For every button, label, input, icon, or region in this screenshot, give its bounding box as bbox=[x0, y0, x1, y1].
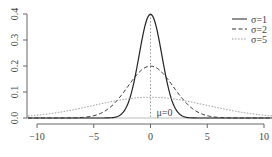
curve-solid bbox=[28, 14, 272, 118]
x-tick-label: 0 bbox=[148, 131, 153, 142]
x-tick-label: −5 bbox=[88, 131, 99, 142]
x-tick-label: 5 bbox=[205, 131, 210, 142]
y-tick-label: 0.0 bbox=[9, 112, 20, 125]
curve-dotted bbox=[28, 97, 272, 116]
curves: μ=0 bbox=[28, 14, 272, 118]
x-axis: −10−50510 bbox=[29, 124, 269, 142]
y-tick-label: 0.3 bbox=[9, 34, 20, 47]
curve-dashed bbox=[28, 66, 272, 118]
y-axis: 0.00.10.20.30.4 bbox=[9, 8, 269, 125]
legend-label: σ=5 bbox=[251, 34, 267, 45]
chart: 0.00.10.20.30.4 −10−50510 μ=0 σ=1σ=2σ=5 bbox=[0, 0, 272, 157]
mu-annotation: μ=0 bbox=[157, 107, 173, 118]
y-tick-label: 0.2 bbox=[9, 60, 20, 73]
x-tick-label: 10 bbox=[259, 131, 269, 142]
y-tick-label: 0.1 bbox=[9, 86, 20, 99]
y-tick-label: 0.4 bbox=[9, 8, 20, 21]
legend: σ=1σ=2σ=5 bbox=[232, 14, 267, 45]
x-tick-label: −10 bbox=[29, 131, 45, 142]
